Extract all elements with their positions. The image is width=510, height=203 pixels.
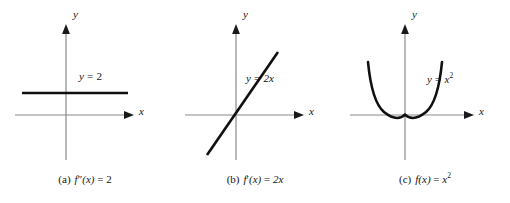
- caption-tag-c: (c): [399, 173, 411, 185]
- panel-c: y x y = x2 (c)f(x) = x2: [340, 0, 510, 203]
- curve-equation-label-a: y = 2: [79, 70, 102, 82]
- plot-area-b: y x y = 2x: [170, 0, 340, 170]
- curve-equation-label-c: y = x2: [427, 73, 453, 85]
- curve-equation-label-b: y = 2x: [246, 72, 274, 84]
- caption-tag-a: (a): [58, 173, 70, 185]
- caption-arg-a: (x): [82, 173, 94, 185]
- panel-b: y x y = 2x (b)f′(x) = 2x: [170, 0, 340, 203]
- x-axis-arrowhead-a: [124, 111, 134, 119]
- caption-c: (c)f(x) = x2: [340, 173, 510, 185]
- y-axis-label-b: y: [243, 8, 248, 20]
- curve-label-rhs-b: 2x: [263, 72, 274, 84]
- y-axis-arrowhead-a: [62, 24, 70, 34]
- caption-equals-a: =: [97, 173, 103, 185]
- curve-line-b: [207, 52, 278, 155]
- x-axis-arrowhead-b: [294, 111, 304, 119]
- graph-svg-a: [0, 0, 170, 170]
- y-axis-arrowhead-b: [232, 24, 240, 34]
- x-axis-label-b: x: [309, 105, 314, 117]
- x-axis-arrowhead-c: [464, 111, 474, 119]
- caption-tag-b: (b): [227, 173, 240, 185]
- caption-b: (b)f′(x) = 2x: [170, 173, 340, 185]
- caption-equals-b: =: [264, 173, 270, 185]
- y-axis-label-c: y: [412, 8, 417, 20]
- curve-label-exponent-c: 2: [450, 71, 454, 80]
- plot-area-a: y x y = 2: [0, 0, 170, 170]
- y-axis-label-a: y: [73, 8, 78, 20]
- plot-area-c: y x y = x2: [340, 0, 510, 170]
- x-axis-label-a: x: [139, 105, 144, 117]
- caption-value-a: 2: [106, 173, 112, 185]
- curve-label-rhs-a: 2: [96, 70, 102, 82]
- caption-value-exponent-c: 2: [447, 171, 451, 180]
- caption-value-b: 2x: [273, 173, 283, 185]
- caption-arg-b: (x): [249, 173, 261, 185]
- x-axis-label-c: x: [479, 105, 484, 117]
- graph-svg-c: [340, 0, 510, 170]
- graph-svg-b: [170, 0, 340, 170]
- caption-equals-c: =: [433, 173, 439, 185]
- y-axis-arrowhead-c: [401, 24, 409, 34]
- caption-a: (a)f″(x) = 2: [0, 173, 170, 185]
- panel-a: y x y = 2 (a)f″(x) = 2: [0, 0, 170, 203]
- figure-three-graphs: y x y = 2 (a)f″(x) = 2 y x: [0, 0, 510, 203]
- caption-arg-c: (x): [418, 173, 430, 185]
